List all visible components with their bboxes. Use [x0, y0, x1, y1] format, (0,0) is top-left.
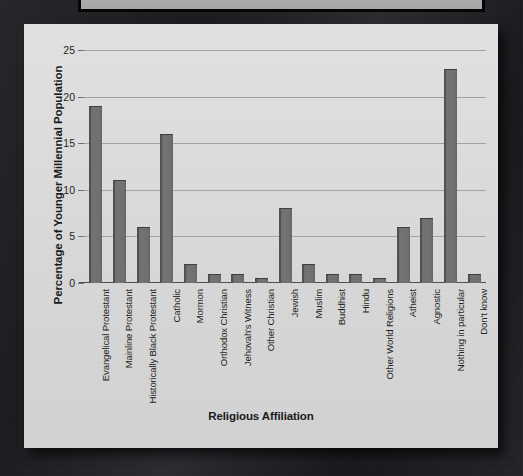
bar — [113, 180, 126, 283]
y-tick-mark — [78, 236, 84, 237]
x-tick-label: Buddhist — [336, 289, 347, 325]
bar — [89, 106, 102, 283]
x-tick-label: Other World Religions — [384, 289, 395, 380]
y-tick-label: 5 — [69, 231, 75, 242]
top-gray-panel — [78, 0, 485, 12]
gridline — [84, 143, 486, 144]
y-tick-label: 10 — [63, 185, 75, 196]
plot-area: 0510152025 — [84, 50, 486, 283]
x-tick-label: Other Christian — [265, 289, 276, 351]
bar — [279, 208, 292, 283]
bar — [255, 278, 268, 283]
y-tick-label: 20 — [63, 91, 75, 102]
x-tick-label: Muslim — [313, 289, 324, 318]
bar — [302, 264, 315, 283]
bar — [326, 274, 339, 283]
x-tick-label: Historically Black Protestant — [147, 289, 158, 404]
x-axis-title: Religious Affiliation — [24, 410, 498, 422]
x-tick-label: Atheist — [407, 289, 418, 317]
x-tick-label: Orthodox Christian — [218, 289, 229, 366]
x-tick-label: Hindu — [360, 289, 371, 313]
bar — [208, 274, 221, 283]
gridline — [84, 190, 486, 191]
bar — [373, 278, 386, 283]
y-tick-label: 0 — [69, 278, 75, 289]
bar — [468, 274, 481, 283]
bar — [184, 264, 197, 283]
x-tick-label: Mormon — [194, 289, 205, 323]
gridline — [84, 50, 486, 51]
y-tick-mark — [78, 97, 84, 98]
x-tick-label: Jewish — [289, 289, 300, 317]
bar — [420, 218, 433, 283]
gridline — [84, 97, 486, 98]
bar — [137, 227, 150, 283]
x-tick-label: Don't know — [478, 289, 489, 335]
x-tick-label-group: Evangelical ProtestantMainline Protestan… — [84, 289, 486, 399]
x-tick-label: Nothing in particular — [455, 289, 466, 371]
y-tick-label: 25 — [63, 45, 75, 56]
bar — [349, 274, 362, 283]
x-tick-label: Agnostic — [431, 289, 442, 325]
x-tick-label: Evangelical Protestant — [100, 289, 111, 381]
y-tick-mark — [78, 190, 84, 191]
x-tick-label: Mainline Protestant — [123, 289, 134, 368]
x-tick-label: Jehovah's Witness — [242, 289, 253, 366]
bar — [444, 69, 457, 283]
y-tick-mark — [78, 283, 84, 284]
chart-figure-panel: Percentage of Younger Millennial Populat… — [24, 24, 498, 448]
y-tick-label: 15 — [63, 138, 75, 149]
x-tick-label: Catholic — [171, 289, 182, 322]
bar — [397, 227, 410, 283]
y-tick-mark — [78, 50, 84, 51]
bar — [160, 134, 173, 283]
bar — [231, 274, 244, 283]
y-tick-mark — [78, 143, 84, 144]
